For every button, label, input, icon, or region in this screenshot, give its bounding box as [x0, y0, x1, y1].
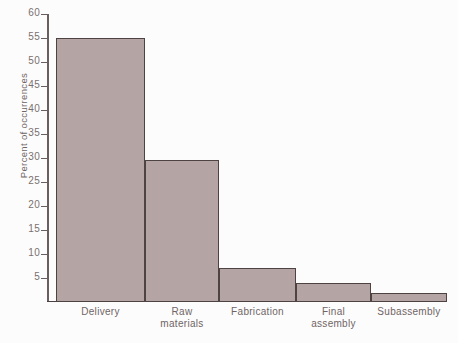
y-tick-label-text: 25 [0, 175, 40, 186]
x-axis-label: Fabrication [219, 306, 296, 318]
y-tick [41, 278, 47, 279]
bar [145, 160, 219, 302]
y-tick-label-text: 10 [0, 247, 40, 258]
bar [56, 38, 145, 302]
bar-chart: Percent of occurrences 60555045403530252… [0, 0, 458, 343]
y-tick [41, 62, 47, 63]
y-tick [41, 86, 47, 87]
x-axis-label-line: Delivery [56, 306, 145, 318]
y-tick-label-text: 45 [0, 79, 40, 90]
x-axis-label-line: Fabrication [219, 306, 296, 318]
x-axis-label: Finalassembly [296, 306, 371, 330]
x-axis-label: Rawmaterials [145, 306, 219, 330]
y-tick [41, 110, 47, 111]
x-axis-label-line: Raw [145, 306, 219, 318]
y-tick [41, 14, 47, 15]
x-axis-label: Delivery [56, 306, 145, 318]
bar [219, 268, 296, 302]
y-tick-label-text: 20 [0, 199, 40, 210]
y-tick [41, 134, 47, 135]
y-tick [41, 38, 47, 39]
y-tick-label-text: 55 [0, 31, 40, 42]
y-tick [41, 254, 47, 255]
y-tick [41, 206, 47, 207]
x-axis-label-line: Subassembly [371, 306, 447, 318]
y-axis-ticks: 60555045403530252015105 [47, 14, 48, 302]
plot-area: 60555045403530252015105 [47, 14, 447, 302]
y-tick-label-text: 15 [0, 223, 40, 234]
x-axis-label: Subassembly [371, 306, 447, 318]
y-tick [41, 158, 47, 159]
y-tick-label-text: 35 [0, 127, 40, 138]
y-tick-label-text: 5 [0, 271, 40, 282]
x-axis-label-line: Final [296, 306, 371, 318]
y-tick-label-text: 30 [0, 151, 40, 162]
y-tick-label-text: 50 [0, 55, 40, 66]
y-tick [41, 182, 47, 183]
bar [371, 293, 447, 302]
x-axis-label-line: materials [145, 318, 219, 330]
y-tick-label-text: 60 [0, 7, 40, 18]
x-axis-label-line: assembly [296, 318, 371, 330]
y-tick [41, 230, 47, 231]
y-tick-label-text: 40 [0, 103, 40, 114]
bar [296, 283, 371, 302]
